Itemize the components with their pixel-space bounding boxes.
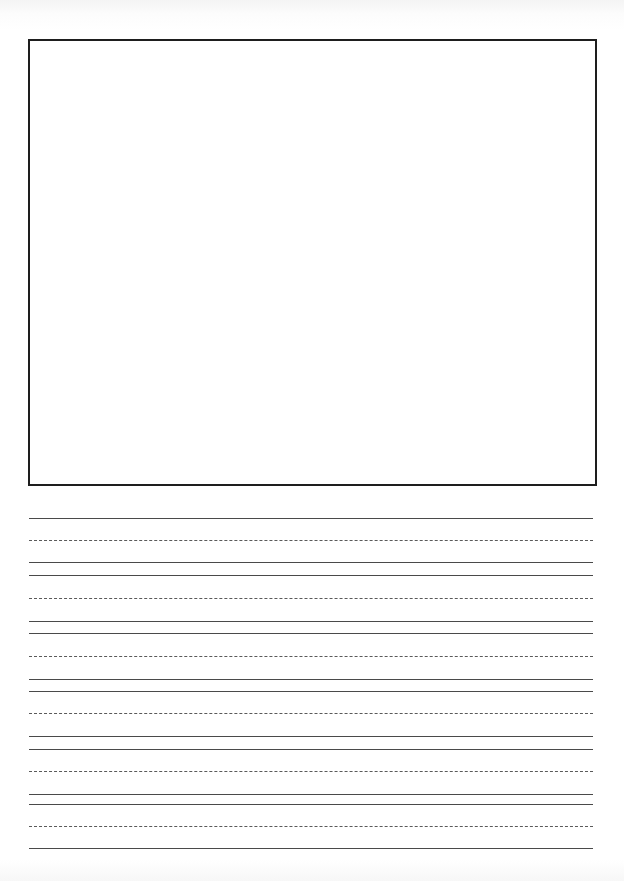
baseline <box>29 736 593 737</box>
top-line <box>29 749 593 750</box>
top-line <box>29 804 593 805</box>
midline <box>29 656 593 657</box>
writing-lines-area[interactable] <box>0 0 624 881</box>
baseline <box>29 848 593 849</box>
baseline <box>29 794 593 795</box>
midline <box>29 826 593 827</box>
baseline <box>29 679 593 680</box>
midline <box>29 598 593 599</box>
top-line <box>29 518 593 519</box>
midline <box>29 713 593 714</box>
top-line <box>29 691 593 692</box>
midline <box>29 540 593 541</box>
top-line <box>29 633 593 634</box>
top-line <box>29 575 593 576</box>
midline <box>29 771 593 772</box>
baseline <box>29 562 593 563</box>
worksheet-page <box>0 0 624 881</box>
baseline <box>29 621 593 622</box>
